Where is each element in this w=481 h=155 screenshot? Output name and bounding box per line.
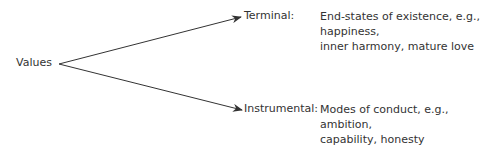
terminal-description-line: End-states of existence, e.g., <box>320 9 480 24</box>
terminal-description-line: happiness, <box>320 24 480 39</box>
instrumental-description-line: capability, honesty <box>320 132 449 147</box>
terminal-label: Terminal: <box>244 9 294 22</box>
instrumental-description-line: Modes of conduct, e.g., <box>320 102 449 117</box>
instrumental-description-line: ambition, <box>320 117 449 132</box>
arrow-to-instrumental <box>59 64 242 110</box>
terminal-description-line: inner harmony, mature love <box>320 39 480 54</box>
root-label: Values <box>16 56 52 69</box>
arrow-to-terminal <box>59 17 241 64</box>
instrumental-label: Instrumental: <box>244 102 318 115</box>
instrumental-description: Modes of conduct, e.g., ambition, capabi… <box>320 102 449 147</box>
terminal-description: End-states of existence, e.g., happiness… <box>320 9 480 54</box>
